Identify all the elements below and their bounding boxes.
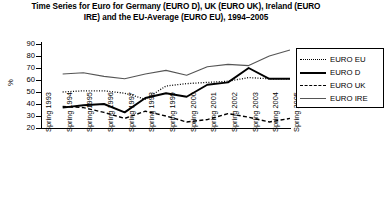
y-tick-label: 20 [20, 124, 35, 132]
y-tick-label: 80 [20, 52, 35, 60]
x-tick-label: Spring 2004 [272, 92, 279, 132]
y-tick-label: 70 [20, 64, 35, 72]
y-tick-label: 40 [20, 100, 35, 108]
chart-container: Time Series for Euro for Germany (EURO D… [0, 0, 392, 202]
legend-item-label: EURO IRE [330, 95, 368, 103]
legend-item-label: EURO D [330, 69, 360, 77]
x-tick-label: Spring 1994 [66, 92, 73, 132]
y-tick-mark [36, 116, 41, 117]
legend-item-euro-ire[interactable]: EURO IRE [297, 92, 383, 105]
x-tick-label: Spring 1998 [148, 92, 155, 132]
y-tick-label: 60 [20, 76, 35, 84]
y-tick-mark [36, 68, 41, 69]
x-tick-label: Spring 2000 [190, 92, 197, 132]
x-tick-label: Spring 2002 [231, 92, 238, 132]
x-tick-label: Spring 1995 [86, 92, 93, 132]
y-axis-title: % [6, 79, 15, 86]
y-tick-mark [36, 56, 41, 57]
x-tick-label: Spring 1999 [169, 92, 176, 132]
legend-item-label: EURO EU [330, 56, 366, 64]
y-tick-mark [36, 44, 41, 45]
x-tick-label: Spring 2001 [210, 92, 217, 132]
y-tick-mark [36, 128, 41, 129]
y-tick-label: 30 [20, 112, 35, 120]
x-tick-label: Spring 1997 [128, 92, 135, 132]
y-axis-line [41, 42, 42, 129]
legend-swatch-icon [300, 56, 326, 64]
y-tick-label: 90 [20, 40, 35, 48]
legend-item-euro-eu[interactable]: EURO EU [297, 53, 383, 66]
x-tick-label: Spring 1996 [107, 92, 114, 132]
y-tick-mark [36, 92, 41, 93]
legend-swatch-icon [300, 95, 326, 103]
x-tick-label: Spring 1993 [45, 92, 52, 132]
x-tick-label: Spring 2003 [252, 92, 259, 132]
legend-item-euro-uk[interactable]: EURO UK [297, 79, 383, 92]
chart-legend: EURO EUEURO DEURO UKEURO IRE [296, 48, 384, 108]
y-tick-mark [36, 104, 41, 105]
legend-item-euro-d[interactable]: EURO D [297, 66, 383, 79]
legend-swatch-icon [300, 69, 326, 77]
legend-swatch-icon [300, 82, 326, 90]
y-tick-label: 50 [20, 88, 35, 96]
y-tick-mark [36, 80, 41, 81]
chart-title: Time Series for Euro for Germany (EURO D… [26, 2, 326, 23]
series-line-euro-ire [63, 50, 290, 79]
legend-item-label: EURO UK [330, 82, 366, 90]
